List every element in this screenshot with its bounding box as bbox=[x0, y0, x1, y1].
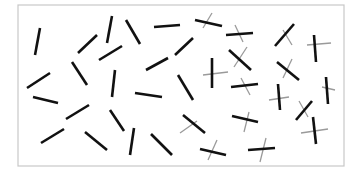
line-segment-display bbox=[0, 0, 361, 177]
bar-segments bbox=[27, 16, 328, 155]
black-bar-segment bbox=[277, 62, 299, 80]
black-bar-segment bbox=[66, 105, 89, 119]
gray-cross-line bbox=[203, 72, 228, 75]
black-bar-segment bbox=[314, 35, 316, 62]
black-bar-segment bbox=[110, 110, 124, 131]
black-bar-segment bbox=[229, 50, 251, 70]
black-bar-segment bbox=[326, 77, 328, 104]
gray-cross-line bbox=[203, 13, 212, 28]
black-bar-segment bbox=[296, 101, 312, 120]
black-bar-segment bbox=[231, 84, 258, 87]
black-bar-segment bbox=[78, 35, 97, 53]
black-bar-segment bbox=[107, 16, 112, 43]
black-bar-segment bbox=[126, 20, 140, 44]
black-bar-segment bbox=[226, 33, 253, 35]
black-bar-segment bbox=[112, 70, 115, 97]
black-bar-segment bbox=[278, 84, 280, 110]
black-bar-segment bbox=[175, 38, 193, 55]
black-bar-segment bbox=[130, 128, 134, 155]
black-bar-segment bbox=[72, 62, 87, 85]
black-bar-segment bbox=[135, 93, 162, 97]
black-bar-segment bbox=[154, 25, 180, 27]
black-bar-segment bbox=[33, 97, 58, 103]
stimulus-canvas bbox=[0, 0, 361, 177]
black-bar-segment bbox=[99, 46, 122, 60]
black-bar-segment bbox=[313, 117, 316, 144]
black-bar-segment bbox=[183, 115, 205, 133]
black-bar-segment bbox=[195, 20, 222, 26]
display-frame bbox=[18, 5, 344, 166]
gray-cross-line bbox=[244, 112, 249, 132]
cross-segments bbox=[180, 13, 335, 162]
black-bar-segment bbox=[248, 148, 275, 150]
black-bar-segment bbox=[27, 73, 50, 88]
black-bar-segment bbox=[35, 28, 40, 55]
black-bar-segment bbox=[232, 116, 258, 122]
gray-cross-line bbox=[307, 43, 331, 45]
gray-cross-line bbox=[322, 87, 335, 90]
black-bar-segment bbox=[85, 132, 107, 150]
black-bar-segment bbox=[151, 134, 172, 155]
black-bar-segment bbox=[41, 129, 64, 143]
black-bar-segment bbox=[178, 75, 193, 100]
black-bar-segment bbox=[146, 58, 168, 70]
